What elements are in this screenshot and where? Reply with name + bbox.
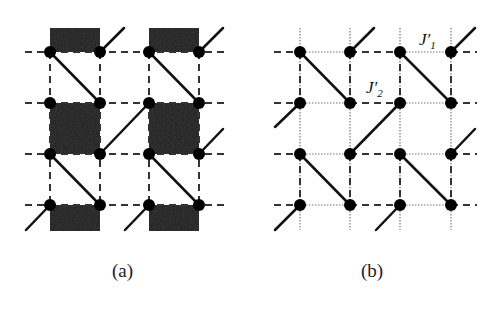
caption-b: (b) (361, 260, 383, 282)
caption-a: (a) (112, 260, 133, 282)
panel-b: J′1 J′2 (274, 28, 477, 230)
label-j2-prime: J′2 (366, 78, 383, 99)
label-j1-prime: J′1 (419, 30, 436, 51)
panel-a (25, 28, 226, 231)
lattice-diagram: J′1 J′2 (0, 0, 502, 312)
solid-diagonal-bonds-b (275, 28, 475, 230)
